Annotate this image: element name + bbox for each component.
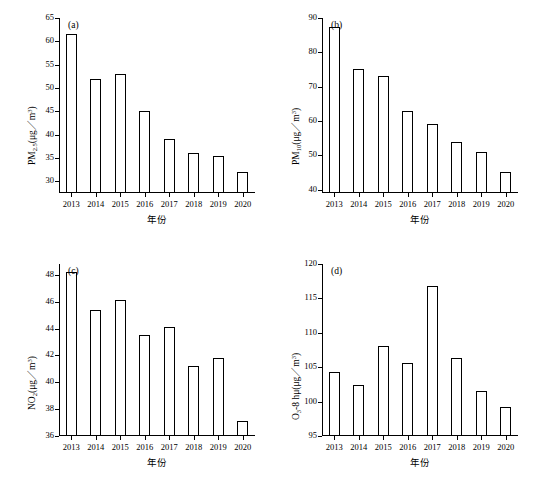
x-tick: [359, 436, 360, 440]
x-axis-title: 年份: [322, 455, 518, 469]
x-tick: [432, 436, 433, 440]
y-tick: [318, 333, 322, 334]
y-tick: [318, 298, 322, 299]
bar: [402, 363, 413, 436]
panel-label: (d): [331, 266, 342, 276]
x-tick: [506, 436, 507, 440]
y-tick: [318, 367, 322, 368]
y-tick-label: 95: [288, 430, 317, 440]
x-tick-label: 2020: [490, 442, 522, 452]
bar: [329, 372, 340, 436]
bar: [353, 385, 364, 436]
y-tick-label: 120: [288, 258, 317, 268]
y-tick: [318, 264, 322, 265]
y-axis-title: O3-8 hμ(μg／m3): [288, 353, 302, 420]
y-tick: [318, 436, 322, 437]
x-tick: [457, 436, 458, 440]
bar: [476, 391, 487, 436]
bar: [427, 286, 438, 436]
plot-axes: [322, 264, 518, 436]
bar: [451, 358, 462, 436]
y-tick: [318, 402, 322, 403]
x-tick: [481, 436, 482, 440]
figure-container: 3035404550556065201320142015201620172018…: [0, 0, 560, 477]
x-tick: [408, 436, 409, 440]
bar: [500, 407, 511, 436]
y-tick-label: 110: [288, 327, 317, 337]
chart-panel-4: 9510010511011512020132014201520162017201…: [0, 0, 560, 477]
y-tick-label: 115: [288, 292, 317, 302]
bar: [378, 346, 389, 436]
x-tick: [334, 436, 335, 440]
x-tick: [383, 436, 384, 440]
